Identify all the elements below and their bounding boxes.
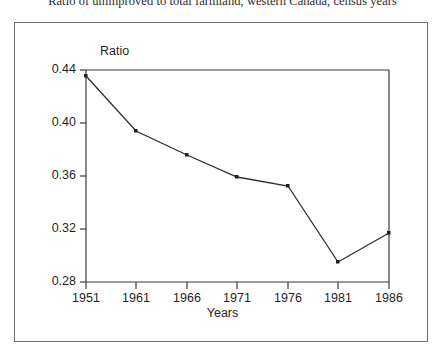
y-tick-label-036: 0.36 [38,168,76,182]
x-tick-label-1961: 1961 [111,291,161,305]
x-tick-label-1951: 1951 [61,291,111,305]
y-tick-label-032: 0.32 [38,221,76,235]
y-tick-label-028: 0.28 [38,274,76,288]
figure-page: Ratio of unimproved to total farmland, w… [0,0,445,357]
x-axis-title: Years [0,306,445,320]
x-tick-label-1971: 1971 [212,291,262,305]
y-axis-title: Ratio [100,44,129,58]
x-tick-label-1976: 1976 [263,291,313,305]
y-tick-label-040: 0.40 [38,115,76,129]
figure-caption: Ratio of unimproved to total farmland, w… [0,0,445,9]
x-tick-label-1966: 1966 [162,291,212,305]
y-tick-label-044: 0.44 [38,62,76,76]
x-tick-label-1981: 1981 [313,291,363,305]
x-tick-label-1986: 1986 [364,291,414,305]
